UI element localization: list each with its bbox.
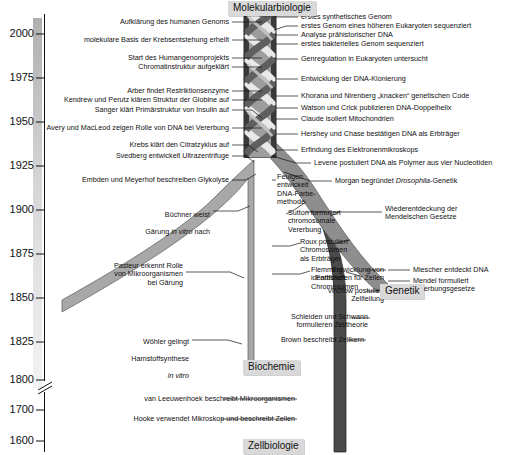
discipline-box-biochemie[interactable]: Biochemie: [243, 360, 300, 375]
event-label: molekulare Basis der Krebsentstehung erh…: [34, 36, 229, 44]
event-label: Watson und Crick publizieren DNA-Doppelh…: [301, 104, 451, 112]
year-label-1900: 1900: [0, 204, 34, 215]
discipline-box-zellbiologie[interactable]: Zellbiologie: [243, 439, 304, 454]
year-label-1700: 1700: [0, 404, 34, 415]
event-label-sutton: Sutton formuliert chromosomale Vererbung: [288, 209, 358, 234]
event-label: Levene postuliert DNA als Polymer aus vi…: [314, 159, 492, 167]
event-line: Harnstoffsynthese: [131, 354, 189, 363]
event-label: erstes bakterielles Genom sequenziert: [301, 40, 424, 48]
event-line: Wöhler gelingt: [143, 337, 189, 346]
event-label-pasteur: Pasteur erkennt Rolle von Mikroorganisme…: [72, 262, 183, 287]
year-label-1800: 1800: [0, 374, 34, 385]
year-label-1825: 1825: [0, 336, 34, 347]
event-label: Miescher entdeckt DNA: [413, 266, 489, 274]
event-label-feulgen: Feulgen entwickelt DNA-Farbe- methode: [277, 173, 331, 207]
event-label: Brown beschreibt Zellkern: [268, 336, 364, 344]
event-line: Büchner weist: [165, 210, 210, 219]
dna-double-helix: [244, 10, 276, 158]
event-label: Chromatinstruktur aufgeklärt: [60, 63, 229, 71]
timeline-figure: 2000 1975 1950 1925 1900 1875 1850 1825 …: [0, 0, 506, 455]
event-label: Svedberg entwickelt Ultrazentrifuge: [48, 152, 229, 160]
event-label: Schleiden und Schwann formulieren Zellth…: [268, 313, 368, 330]
axis-shade-bar: [33, 18, 42, 388]
event-label: Mendel formuliert Vererbungsgesetze: [413, 277, 503, 294]
event-label-mendel-rediscovery: Wiederentdeckung der Mendelschen Gesetze: [385, 205, 495, 222]
year-label-1850: 1850: [0, 292, 34, 303]
event-label: Erfindung des Elektronenmikroskops: [301, 146, 418, 154]
event-label-buechner: Büchner weist Gärung in vitro nach: [100, 203, 210, 245]
year-label-1925: 1925: [0, 160, 34, 171]
event-label: Embden und Meyerhof beschreiben Glykolys…: [29, 176, 229, 184]
year-label-1600: 1600: [0, 435, 34, 446]
event-line: in vitro: [168, 371, 189, 380]
event-label-woehler: Wöhler gelingt Harnstoffsynthese in vitr…: [88, 330, 189, 389]
event-label: Krebs klärt den Citratzyklus auf: [58, 141, 229, 149]
event-label: Sanger klärt Primärstruktur von Insulin …: [46, 106, 229, 114]
event-label: Avery und MacLeod zeigen Rolle von DNA b…: [18, 124, 229, 132]
year-label-2000: 2000: [0, 28, 34, 39]
event-label-flemming: Flemming identifiziert Chromosomen: [311, 266, 377, 291]
year-label-1975: 1975: [0, 72, 34, 83]
event-label: Claude isoliert Mitochondrien: [301, 115, 394, 123]
event-label: Entwicklung der DNA-Klonierung: [301, 75, 406, 83]
event-line: Gärung in vitro nach: [145, 227, 210, 236]
event-label: Genregulation in Eukaryoten untersucht: [301, 55, 428, 63]
discipline-box-genetik[interactable]: Genetik: [380, 284, 424, 299]
event-label-roux: Roux postuliert Chromosomen als Erbträge…: [300, 238, 366, 263]
event-label: Kendrew und Perutz klären Struktur der G…: [26, 96, 229, 104]
event-label: Hershey und Chase bestätigen DNA als Erb…: [301, 130, 460, 138]
event-label: Aufklärung des humanen Genoms: [60, 18, 229, 26]
event-label: Hooke verwendet Mikroskop und beschreibt…: [106, 415, 295, 423]
event-label-morgan: Morgan begründet Drosophila-Genetik: [335, 177, 457, 185]
discipline-box-molekularbiologie[interactable]: Molekularbiologie: [228, 1, 316, 16]
event-label: Khorana und Nirenberg „knacken“ genetisc…: [301, 92, 469, 100]
event-label: van Leeuwenhoek beschreibt Mikroorganism…: [113, 395, 295, 403]
year-label-1875: 1875: [0, 248, 34, 259]
